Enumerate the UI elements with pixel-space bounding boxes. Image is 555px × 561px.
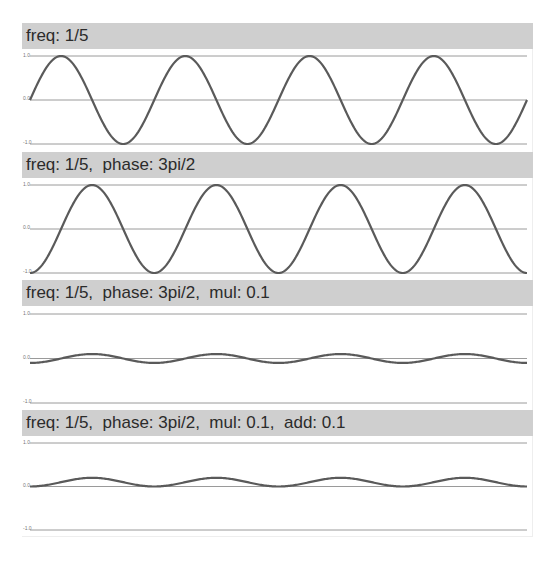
plot-area: 1.0 0.0 -1.0 xyxy=(22,185,533,273)
panel-title: freq: 1/5, phase: 3pi/2, mul: 0.1 xyxy=(22,280,533,306)
sine-curve xyxy=(22,56,533,144)
plot-area: 1.0 0.0 -1.0 xyxy=(22,56,533,144)
plot-area: 1.0 0.0 -1.0 xyxy=(22,443,533,530)
plot-area: 1.0 0.0 -1.0 xyxy=(22,314,533,403)
curve-line xyxy=(30,478,527,487)
sine-curve xyxy=(22,314,533,403)
panel-title: freq: 1/5, phase: 3pi/2, mul: 0.1, add: … xyxy=(22,410,533,436)
sine-curve xyxy=(22,443,533,530)
panel-title: freq: 1/5, phase: 3pi/2 xyxy=(22,152,533,178)
panel-title: freq: 1/5 xyxy=(22,23,533,49)
sine-curve xyxy=(22,185,533,273)
